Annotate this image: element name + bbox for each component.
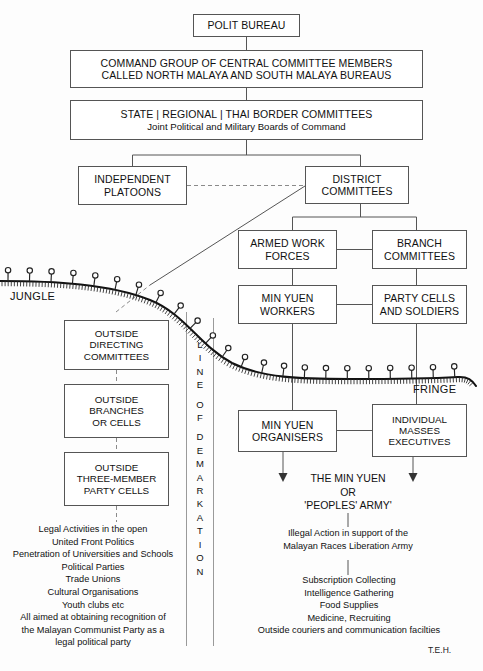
jungle-hatch-tick [469,382,473,385]
box-command-group-line2: CALLED NORTH MALAYA AND SOUTH MALAYA BUR… [71,69,422,81]
box-outside-branches-line1: OUTSIDE [65,394,168,405]
jungle-tree-crown [323,365,328,370]
jungle-hatch-tick [213,353,216,357]
jungle-hatch-tick [251,371,252,376]
jungle-hatch-tick [141,297,143,302]
jungle-hatch-tick [233,364,235,369]
box-outside-directing-line1: OUTSIDE [65,328,168,339]
jungle-hatch-tick [94,286,95,291]
jungle-hatch-tick [160,306,163,310]
jungle-hatch-tick [230,363,232,368]
jungle-tree-crown [281,363,286,368]
box-command-group[interactable]: COMMAND GROUP OF CENTRAL COMMITTEE MEMBE… [70,50,423,88]
box-min-yuen-workers-line1: MIN YUEN [239,292,336,304]
jungle-hatch-tick [242,368,244,373]
left-list-line: Trade Unions [0,573,186,586]
left-list-line: All aimed at obtaining recognition of [0,611,186,624]
box-branch-committees-line1: BRANCH [373,237,466,249]
demarcation-letter: L [193,338,207,351]
box-outside-branches-line3: OR CELLS [65,417,168,428]
box-outside-directing-line3: COMMITTEES [65,351,168,362]
jungle-tree-stem [222,350,227,357]
jungle-tree-crown [210,333,215,338]
jungle-hatch-tick [245,369,247,374]
box-armed-work-forces-line2: FORCES [239,250,336,262]
jungle-hatch-tick [106,288,107,293]
jungle-tree-crown [387,365,392,370]
demarcation-letter: I [193,351,207,364]
demarcation-letter: M [193,457,207,470]
demarcation-letter: T [193,524,207,537]
jungle-tree-stem [136,287,138,295]
box-min-yuen-workers[interactable]: MIN YUEN WORKERS [238,285,337,324]
jungle-hatch-tick [221,358,224,362]
box-outside-branches-or-cells[interactable]: OUTSIDE BRANCHES OR CELLS [64,384,169,438]
jungle-hatch-tick [239,367,241,372]
left-list-line: the Malayan Communist Party as a [0,624,186,637]
jungle-tree-stem [190,322,196,328]
box-individual-masses-line2: MASSES [373,425,466,436]
right-list-line: Intelligence Gathering [215,587,483,600]
jungle-tree-stem [72,275,73,283]
jungle-hatch-tick [260,373,261,378]
box-outside-branches-line2: BRANCHES [65,405,168,416]
jungle-hatch-tick [109,289,110,294]
box-party-cells-line2: AND SOLDIERS [373,305,466,317]
demarcation-letter: E [193,378,207,391]
demarcation-letter: R [193,484,207,497]
jungle-tree-crown [71,270,76,275]
jungle-hatch-tick [464,378,465,383]
box-independent-platoons[interactable]: INDEPENDENT PLATOONS [78,166,187,205]
left-column-activity-list: Legal Activities in the openUnited Front… [0,523,186,649]
jungle-hatch-tick [188,330,192,334]
demarcation-letter: F [193,411,207,424]
box-individual-masses-executives[interactable]: INDIVIDUAL MASSES EXECUTIVES [372,404,467,457]
box-state-regional-committees[interactable]: STATE | REGIONAL | THAI BORDER COMMITTEE… [70,100,423,140]
jungle-hatch-tick [76,284,77,289]
demarcation-letter: N [193,565,207,578]
jungle-hatch-tick [254,372,255,377]
box-individual-masses-line3: EXECUTIVES [373,436,466,447]
box-independent-platoons-line2: PLATOONS [79,186,186,198]
jungle-hatch-tick [183,325,187,329]
box-district-committees[interactable]: DISTRICT COMMITTEES [305,166,409,204]
jungle-tree-crown [136,282,141,287]
label-jungle: JUNGLE [10,290,55,302]
jungle-hatch-tick [186,328,190,332]
box-min-yuen-organisers-line2: ORGANISERS [239,431,336,443]
jungle-tree-stem [156,295,160,303]
box-independent-platoons-line1: INDEPENDENT [79,173,186,185]
jungle-hatch-tick [136,295,138,300]
jungle-hatch-tick [85,285,86,290]
left-list-line: Penetration of Universities and Schools [0,548,186,561]
jungle-hatch-tick [208,349,211,353]
demarcation-letter: O [193,398,207,411]
label-line-of-demarkation: LINE OF DEMARKATION [193,338,207,578]
jungle-tree-stem [283,368,284,376]
jungle-hatch-tick [285,377,286,382]
box-armed-work-forces[interactable]: ARMED WORK FORCES [238,230,337,269]
jungle-tree-crown [430,364,435,369]
jungle-tree-stem [115,281,117,289]
box-outside-three-member-party-cells[interactable]: OUTSIDE THREE-MEMBER PARTY CELLS [64,452,169,506]
jungle-hatch-tick [279,376,280,381]
jungle-hatch-tick [219,357,222,361]
box-branch-committees[interactable]: BRANCH COMMITTEES [372,230,467,269]
box-party-cells-and-soldiers[interactable]: PARTY CELLS AND SOLDIERS [372,285,467,324]
jungle-hatch-tick [181,323,185,327]
jungle-tree-crown [409,365,414,370]
left-list-line: Political Parties [0,561,186,574]
box-min-yuen-organisers[interactable]: MIN YUEN ORGANISERS [238,410,337,452]
jungle-tree-crown [345,366,350,371]
box-polit-bureau[interactable]: POLIT BUREAU [193,14,300,37]
right-list-line: Subscription Collecting [215,574,483,587]
demarcation-letter: D [193,430,207,443]
label-fringe: FRINGE [413,383,456,395]
jungle-hatch-tick [88,285,89,290]
illegal-action-line2: Malayan Races Liberation Army [248,540,448,553]
jungle-hatch-tick [179,321,182,325]
box-outside-directing-committees[interactable]: OUTSIDE DIRECTING COMMITTEES [64,320,169,370]
jungle-tree-crown [302,365,307,370]
jungle-hatch-tick [152,302,154,307]
jungle-hatch-tick [273,375,274,380]
